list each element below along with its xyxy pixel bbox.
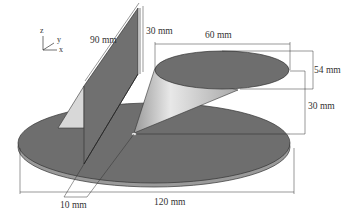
axis-z-label: z <box>40 27 44 35</box>
axis-x-label: x <box>59 46 63 54</box>
dim-ellipse-width: 60 mm <box>205 31 232 41</box>
dim-gap: 10 mm <box>60 201 87 211</box>
dim-plate-offset: 30 mm <box>146 27 173 37</box>
dim-ellipse-depth: 54 mm <box>314 66 341 76</box>
axis-triad-icon <box>43 36 57 50</box>
geometry-drawing <box>0 0 358 222</box>
dim-cone-height: 30 mm <box>308 102 335 112</box>
triangle-face <box>58 86 84 128</box>
dim-base-diameter: 120 mm <box>154 198 185 208</box>
dim-plate-length: 90 mm <box>90 36 117 46</box>
axis-y-label: y <box>57 36 61 44</box>
